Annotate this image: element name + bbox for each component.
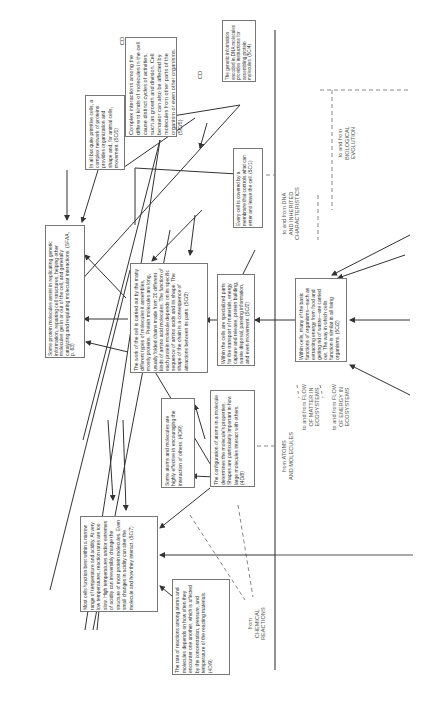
concept-box-complex-interactions: Complex interactions among the different… <box>125 37 177 137</box>
concept-text: Complex interactions among the different… <box>126 38 178 138</box>
label-flow-of-energy: to and from FLOWOF ENERGY INECOSYSTEMS <box>331 384 351 430</box>
concept-box-genetic-information: The genetic information encoded in DNA m… <box>222 20 256 82</box>
concept-text: Some atoms and molecules are highly effe… <box>162 399 196 489</box>
concept-text: Some protein molecules assist in replica… <box>46 226 86 359</box>
concept-text: Within the cells are specialized parts f… <box>218 275 256 367</box>
label-flow-of-matter: to and from FLOWOF MATTER INECOSYSTEMS <box>301 384 321 430</box>
concept-box-specialized-parts: Within the cells are specialized parts f… <box>217 274 255 366</box>
label-biological-evolution: to and fromBIOLOGICALEVOLUTION <box>337 126 357 160</box>
concept-box-work-of-cell: The work of the cell is carried out by t… <box>130 263 208 373</box>
concept-box-membrane: Every cell is covered by a membrane that… <box>233 148 263 228</box>
concept-box-primitive-cells: In all but quite primitive cells, a comp… <box>85 95 125 170</box>
concept-text: Most cells function best within a narrow… <box>81 517 159 613</box>
concept-text: The work of the cell is carried out by t… <box>131 264 209 374</box>
label-dna-inherited: to and from DNAAND INHERITEDCHARACTERIST… <box>281 187 301 240</box>
concept-text: Every cell is covered by a membrane that… <box>234 149 264 229</box>
concept-box-atoms-encouraging: Some atoms and molecules are highly effe… <box>161 398 195 488</box>
concept-text: In all but quite primitive cells, a comp… <box>86 96 126 171</box>
concept-text: The configuration of atoms in a molecule… <box>211 391 256 488</box>
concept-box-temperature-acidity: Most cells function best within a narrow… <box>80 516 158 612</box>
concept-box-protein-molecules-assist: Some protein molecules assist in replica… <box>45 225 85 358</box>
cd-marker: CD <box>197 71 203 80</box>
concept-text: The rate of reactions among atoms and mo… <box>173 580 231 676</box>
concept-box-configuration-atoms: The configuration of atoms in a molecule… <box>210 390 255 487</box>
concept-box-basic-functions: Within cells, many of the basic function… <box>295 278 347 362</box>
label-atoms-molecules: from ATOMSAND MOLECULES <box>281 432 294 480</box>
concept-box-reaction-rate: The rate of reactions among atoms and mo… <box>172 579 230 675</box>
label-chemical-reactions: fromCHEMICALREACTIONS <box>247 607 267 640</box>
concept-text: Within cells, many of the basic function… <box>296 279 348 363</box>
concept-text: The genetic information encoded in DNA m… <box>223 21 257 83</box>
